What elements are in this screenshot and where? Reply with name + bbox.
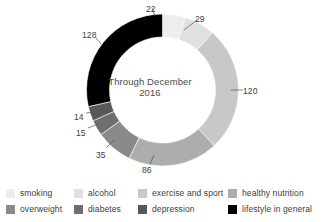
legend-row: smokingalcoholexercise and sporthealthy … (0, 185, 325, 201)
legend-item[interactable]: exercise and sport (138, 188, 223, 198)
donut-chart: Through December 2016 222912086351514128 (0, 0, 325, 180)
legend-row: overweightdiabetesdepressionlifestyle in… (0, 201, 325, 217)
slice-value-label: 29 (195, 14, 205, 24)
legend-swatch-icon (228, 205, 237, 214)
legend-swatch-icon (6, 205, 15, 214)
center-text-line2: 2016 (90, 87, 210, 98)
legend-item[interactable]: depression (138, 204, 195, 214)
legend-label: diabetes (88, 204, 121, 214)
legend-label: smoking (20, 188, 52, 198)
slice-value-label: 15 (76, 128, 86, 138)
legend-swatch-icon (74, 205, 83, 214)
legend-label: lifestyle in general (242, 204, 312, 214)
slice-value-label: 35 (96, 150, 106, 160)
legend-label: exercise and sport (152, 188, 223, 198)
legend-swatch-icon (138, 189, 147, 198)
legend-label: depression (152, 204, 195, 214)
legend-swatch-icon (6, 189, 15, 198)
legend-item[interactable]: alcohol (74, 188, 116, 198)
legend-swatch-icon (74, 189, 83, 198)
slice-value-label: 86 (142, 165, 152, 175)
legend-item[interactable]: lifestyle in general (228, 204, 312, 214)
chart-legend: smokingalcoholexercise and sporthealthy … (0, 182, 325, 222)
legend-swatch-icon (228, 189, 237, 198)
legend-item[interactable]: overweight (6, 204, 62, 214)
slice-value-label: 120 (243, 86, 257, 96)
donut-center-text: Through December 2016 (90, 76, 210, 98)
slice-value-label: 14 (74, 112, 84, 122)
legend-label: overweight (20, 204, 62, 214)
center-text-line1: Through December (90, 76, 210, 87)
legend-label: alcohol (88, 188, 116, 198)
legend-swatch-icon (138, 205, 147, 214)
slice-value-label: 128 (82, 30, 96, 40)
legend-item[interactable]: diabetes (74, 204, 121, 214)
legend-label: healthy nutrition (242, 188, 304, 198)
donut-slice (129, 129, 214, 166)
slice-value-label: 22 (146, 4, 156, 14)
legend-item[interactable]: healthy nutrition (228, 188, 304, 198)
legend-item[interactable]: smoking (6, 188, 52, 198)
